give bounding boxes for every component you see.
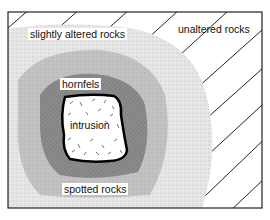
label-hornfels: hornfels: [60, 78, 101, 90]
label-unaltered-rocks: unaltered rocks: [176, 23, 252, 35]
label-spotted-rocks: spotted rocks: [62, 183, 128, 195]
label-intrusion: intrusion: [68, 119, 112, 131]
label-slightly-altered-rocks: slightly altered rocks: [28, 28, 127, 40]
